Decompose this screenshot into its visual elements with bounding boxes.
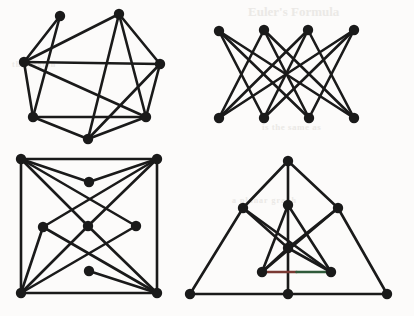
graph-vertex [155, 59, 165, 69]
graph-bottom-right [185, 156, 392, 299]
graph-vertex [333, 203, 343, 213]
graph-vertex [259, 25, 269, 35]
graph-edge [88, 117, 146, 139]
graph-vertex [185, 289, 195, 299]
graph-vertex [382, 289, 392, 299]
graph-vertex [83, 221, 93, 231]
graph-vertex [28, 112, 38, 122]
graph-vertex [349, 25, 359, 35]
graph-vertex [304, 113, 314, 123]
graph-vertex [303, 25, 313, 35]
graph-vertex [259, 113, 269, 123]
graph-edge [190, 208, 243, 294]
graph-vertex [83, 134, 93, 144]
graph-vertex [283, 243, 293, 253]
graph-vertex [84, 177, 94, 187]
graph-edge [288, 161, 338, 208]
graph-vertex [16, 154, 26, 164]
graph-edge [88, 14, 119, 139]
graph-edge [24, 62, 146, 117]
graph-vertex [326, 267, 336, 277]
graph-vertex [114, 9, 124, 19]
graph-edge [24, 62, 33, 117]
graph-vertex [152, 288, 162, 298]
graph-vertex [214, 26, 224, 36]
graph-vertex [55, 11, 65, 21]
graph-vertex [238, 203, 248, 213]
graph-vertex [283, 200, 293, 210]
graph-vertex [257, 267, 267, 277]
graph-edge [33, 117, 88, 139]
graph-vertex [84, 266, 94, 276]
graph-vertex [141, 112, 151, 122]
graph-canvas [0, 0, 414, 316]
graph-edge [243, 161, 288, 208]
graph-edge [288, 205, 331, 272]
graph-top-right [214, 25, 359, 123]
graph-edge [43, 159, 157, 227]
graph-vertex [283, 289, 293, 299]
graph-vertex [19, 57, 29, 67]
graph-vertex [349, 113, 359, 123]
graph-vertex [283, 156, 293, 166]
figure-sheet: Euler's Formula is the same as the regio… [0, 0, 414, 316]
graph-top-left [19, 9, 165, 144]
graph-edge [338, 208, 387, 294]
graph-vertex [38, 222, 48, 232]
graph-bottom-left [16, 154, 162, 298]
graph-vertex [131, 221, 141, 231]
graph-edge [24, 62, 160, 64]
graph-edge [24, 14, 119, 62]
graph-vertex [152, 154, 162, 164]
graph-vertex [214, 113, 224, 123]
graph-vertex [16, 288, 26, 298]
